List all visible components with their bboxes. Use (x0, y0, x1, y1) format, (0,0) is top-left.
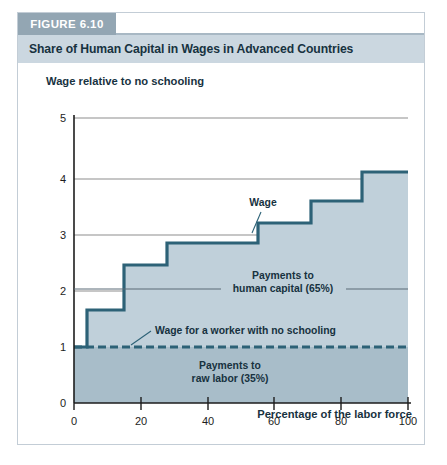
annotation-raw-labor-line2: raw labor (35%) (192, 373, 269, 384)
figure-title: Share of Human Capital in Wages in Advan… (18, 42, 353, 56)
figure-number-badge: FIGURE 6.10 (18, 13, 116, 35)
y-tick-0: 0 (60, 397, 66, 409)
figure-title-bar: Share of Human Capital in Wages in Advan… (18, 35, 424, 63)
y-axis: 5 4 3 2 1 0 (60, 112, 74, 409)
area-fill-human-capital (74, 172, 408, 347)
y-tick-3: 3 (60, 229, 66, 241)
y-tick-2: 2 (60, 285, 66, 297)
figure-card: FIGURE 6.10 Share of Human Capital in Wa… (17, 12, 425, 445)
annotation-wage-label: Wage (249, 197, 277, 208)
y-tick-4: 4 (60, 173, 66, 185)
plot-area: Wage relative to no schooling Percentage… (18, 63, 424, 444)
x-tick-40: 40 (202, 415, 214, 427)
y-tick-5: 5 (60, 112, 66, 124)
x-tick-0: 0 (71, 415, 77, 427)
annotation-human-capital-line1: Payments to (252, 270, 314, 281)
annotation-raw-labor-line1: Payments to (199, 360, 261, 371)
annotation-no-schooling-label: Wage for a worker with no schooling (155, 325, 336, 336)
y-tick-1: 1 (60, 341, 66, 353)
x-tick-20: 20 (135, 415, 147, 427)
figure-number-label: FIGURE 6.10 (30, 18, 103, 30)
x-tick-80: 80 (335, 415, 347, 427)
wage-step-chart: 5 4 3 2 1 0 0 20 40 60 80 100 (18, 63, 424, 444)
x-tick-100: 100 (399, 415, 417, 427)
x-tick-60: 60 (268, 415, 280, 427)
annotation-human-capital-line2: human capital (65%) (233, 283, 333, 294)
